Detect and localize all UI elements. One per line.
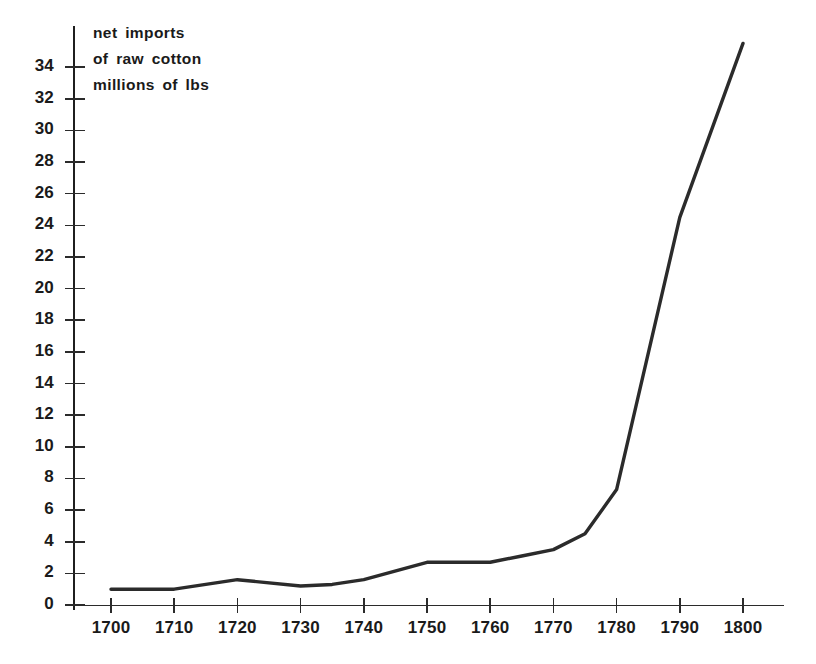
y-axis-tick-label: 22: [8, 246, 54, 266]
y-axis-tick-label: 4: [8, 531, 54, 551]
x-axis-tick: [553, 598, 555, 613]
x-axis-tick-label: 1800: [703, 618, 783, 638]
y-axis-tick-label: 2: [8, 562, 54, 582]
y-axis-tick: [65, 98, 85, 100]
y-axis-tick: [65, 256, 85, 258]
y-axis-tick: [65, 130, 85, 132]
y-axis-tick: [65, 225, 85, 227]
y-axis-tick-label: 6: [8, 499, 54, 519]
x-axis-tick: [300, 598, 302, 613]
chart-title-line-1: net imports: [93, 20, 209, 46]
y-axis-tick: [65, 351, 85, 353]
y-axis-tick-label: 28: [8, 151, 54, 171]
x-axis-tick: [173, 598, 175, 613]
y-axis-tick-label: 12: [8, 404, 54, 424]
chart-figure: net imports of raw cotton millions of lb…: [0, 0, 816, 664]
y-axis-tick-label: 18: [8, 309, 54, 329]
y-axis-tick: [65, 161, 85, 163]
chart-title-line-3: millions of lbs: [93, 72, 209, 98]
y-axis-tick: [65, 478, 85, 480]
x-axis-tick: [363, 598, 365, 613]
y-axis-tick-label: 0: [8, 594, 54, 614]
y-axis-tick-label: 8: [8, 467, 54, 487]
y-axis-tick: [65, 573, 85, 575]
y-axis-line: [73, 26, 75, 610]
y-axis-tick-label: 26: [8, 183, 54, 203]
data-series-line: [111, 43, 743, 589]
y-axis-tick: [65, 288, 85, 290]
chart-title-line-2: of raw cotton: [93, 46, 209, 72]
y-axis-tick-label: 34: [8, 56, 54, 76]
y-axis-tick: [65, 193, 85, 195]
y-axis-tick-label: 16: [8, 341, 54, 361]
x-axis-tick: [237, 598, 239, 613]
y-axis-tick-label: 30: [8, 119, 54, 139]
y-axis-tick-label: 32: [8, 88, 54, 108]
y-axis-tick: [65, 383, 85, 385]
y-axis-tick-label: 24: [8, 214, 54, 234]
plot-area: [0, 0, 816, 664]
y-axis-tick-label: 10: [8, 436, 54, 456]
x-axis-tick: [616, 598, 618, 613]
y-axis-tick-label: 14: [8, 373, 54, 393]
x-axis-tick: [426, 598, 428, 613]
y-axis-tick: [65, 509, 85, 511]
y-axis-tick: [65, 604, 85, 606]
x-axis-tick: [742, 598, 744, 613]
x-axis-tick: [679, 598, 681, 613]
y-axis-tick: [65, 541, 85, 543]
x-axis-tick: [489, 598, 491, 613]
y-axis-tick: [65, 446, 85, 448]
y-axis-tick: [65, 319, 85, 321]
chart-title: net imports of raw cotton millions of lb…: [93, 20, 209, 98]
x-axis-tick: [110, 598, 112, 613]
y-axis-tick: [65, 414, 85, 416]
y-axis-tick-label: 20: [8, 278, 54, 298]
y-axis-tick: [65, 66, 85, 68]
